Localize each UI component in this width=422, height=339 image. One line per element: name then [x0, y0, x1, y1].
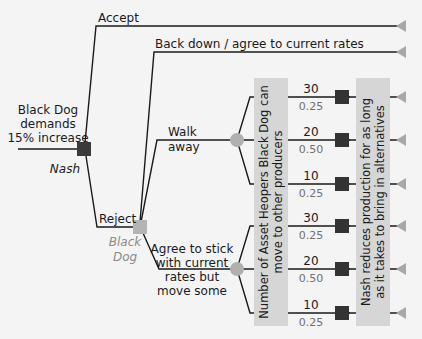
agree-label-4: move some: [157, 284, 227, 298]
outcome-value: 10: [303, 169, 318, 183]
reject-label: Reject: [99, 212, 136, 226]
root-label-3: 15% increase: [7, 131, 88, 145]
outcome-probability: 0.25: [299, 100, 324, 113]
root-label-2: demands: [20, 117, 76, 131]
right-band-text-2: as it takes to bring in alternatives: [373, 105, 387, 299]
outcome-value: 10: [303, 298, 318, 312]
outcome-fans: Black Dog demands 15% increase Nash Acce…: [0, 0, 422, 339]
outcome-value: 30: [303, 211, 318, 225]
nash-label: Nash: [50, 162, 80, 176]
walk-away-label-1: Walk: [168, 125, 197, 139]
agree-label-1: Agree to stick: [151, 242, 234, 256]
agree-label-3: rates but: [165, 270, 220, 284]
outcome-value: 20: [303, 125, 318, 139]
outcome-value: 30: [303, 82, 318, 96]
walk-away-chance-node: [230, 133, 244, 147]
accept-label: Accept: [98, 11, 139, 25]
outcome-probability: 0.50: [299, 272, 324, 285]
agree-label-2: with current: [156, 256, 229, 270]
left-band-text-2: move to other producers: [271, 131, 285, 274]
outcome-probability: 0.50: [299, 143, 324, 156]
outcome-probability: 0.25: [299, 316, 324, 329]
black-dog-label-2: Dog: [113, 250, 138, 264]
walk-away-label-2: away: [168, 140, 200, 154]
agree-chance-node: [230, 262, 244, 276]
outcome-probability: 0.25: [299, 187, 324, 200]
outcome-probability: 0.25: [299, 229, 324, 242]
outcome-value: 20: [303, 254, 318, 268]
back-down-label: Back down / agree to current rates: [155, 37, 364, 51]
black-dog-label-1: Black: [109, 235, 143, 249]
right-band-text-1: Nash reduces production for as long: [359, 98, 373, 306]
root-label-1: Black Dog: [18, 103, 78, 117]
left-band-text-1: Number of Asset Heopers Black Dog can: [257, 85, 271, 318]
